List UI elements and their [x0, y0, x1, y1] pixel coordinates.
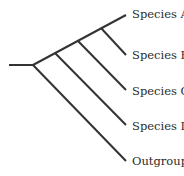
- label-species-d: Species D: [132, 121, 184, 133]
- label-outgroup: Outgroup: [132, 156, 184, 168]
- branch-species-d: [55, 53, 126, 125]
- branch-species-b: [101, 28, 126, 55]
- branch-outgroup: [33, 65, 126, 161]
- label-species-a: Species A: [132, 9, 184, 21]
- label-species-c: Species C: [132, 86, 184, 98]
- label-species-b: Species B: [132, 50, 184, 62]
